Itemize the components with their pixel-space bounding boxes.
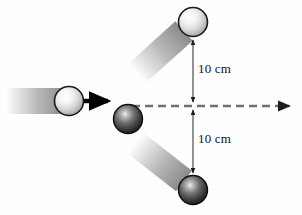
collision-diagram: 10 cm 10 cm [0,0,302,215]
deflected-dark-ball [179,176,208,205]
upper-distance-label: 10 cm [198,61,231,77]
incoming-white-ball [55,87,84,116]
lower-distance-label: 10 cm [198,131,231,147]
target-dark-ball [114,105,143,134]
deflected-white-ball [179,8,208,37]
diagram-canvas [0,0,302,215]
